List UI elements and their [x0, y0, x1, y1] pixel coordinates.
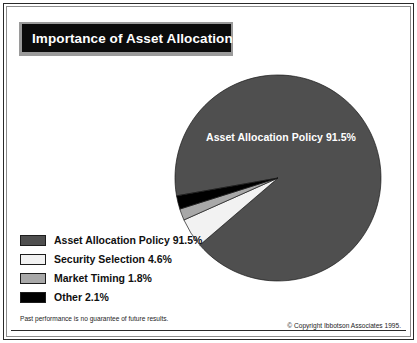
legend-item: Market Timing 1.8% [20, 269, 202, 287]
legend-item: Asset Allocation Policy 91.5% [20, 231, 202, 249]
footer-divider [11, 330, 406, 331]
legend-swatch-asset-allocation-policy [20, 235, 46, 246]
legend-label: Other 2.1% [54, 291, 109, 303]
legend-label: Asset Allocation Policy 91.5% [54, 234, 202, 246]
legend: Asset Allocation Policy 91.5% Security S… [20, 231, 202, 307]
chart-figure: Importance of Asset Allocation Asset All… [0, 0, 417, 343]
legend-item: Other 2.1% [20, 288, 202, 306]
legend-swatch-other [20, 292, 46, 303]
legend-swatch-market-timing [20, 273, 46, 284]
legend-swatch-security-selection [20, 254, 46, 265]
disclaimer-text: Past performance is no guarantee of futu… [20, 315, 168, 322]
pie-slice-label-asset-allocation-policy: Asset Allocation Policy 91.5% [205, 131, 357, 143]
legend-label: Market Timing 1.8% [54, 272, 152, 284]
copyright-text: © Copyright Ibbotson Associates 1995. [287, 322, 401, 329]
legend-label: Security Selection 4.6% [54, 253, 172, 265]
legend-item: Security Selection 4.6% [20, 250, 202, 268]
